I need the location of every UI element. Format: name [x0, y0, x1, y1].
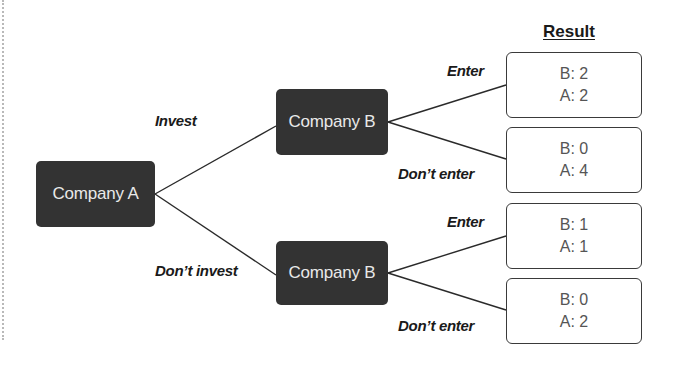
- result-a-value: A: 2: [560, 85, 588, 107]
- branch-label-dont-invest: Don’t invest: [155, 262, 238, 279]
- edge-bottom-dont-enter: [388, 273, 506, 310]
- result-a-value: A: 4: [560, 160, 588, 182]
- result-a-value: A: 2: [560, 311, 588, 333]
- edge-top-enter: [388, 85, 506, 122]
- edge-bottom-enter: [388, 236, 506, 273]
- branch-label-bottom-enter: Enter: [447, 213, 484, 230]
- result-box-4: B: 0 A: 2: [506, 278, 642, 344]
- result-box-3: B: 1 A: 1: [506, 203, 642, 269]
- node-company-b-top: Company B: [276, 89, 388, 155]
- result-header: Result: [543, 22, 595, 42]
- result-box-2: B: 0 A: 4: [506, 127, 642, 193]
- node-company-b-bottom: Company B: [276, 241, 388, 305]
- branch-label-top-enter: Enter: [447, 62, 484, 79]
- result-box-1: B: 2 A: 2: [506, 52, 642, 118]
- edge-invest: [155, 126, 276, 194]
- result-b-value: B: 2: [560, 63, 588, 85]
- branch-label-invest: Invest: [155, 112, 197, 129]
- node-company-a: Company A: [36, 161, 155, 227]
- result-b-value: B: 0: [560, 138, 588, 160]
- branch-label-top-dont-enter: Don’t enter: [398, 165, 474, 182]
- result-a-value: A: 1: [560, 236, 588, 258]
- result-b-value: B: 1: [560, 214, 588, 236]
- branch-label-bottom-dont-enter: Don’t enter: [398, 317, 474, 334]
- result-b-value: B: 0: [560, 289, 588, 311]
- edge-top-dont-enter: [388, 122, 506, 159]
